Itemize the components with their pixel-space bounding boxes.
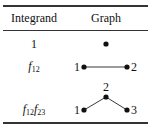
vertex-label-r2-1: 1 — [74, 61, 80, 73]
vertex-1 — [81, 107, 86, 112]
vertex-1 — [81, 64, 86, 69]
vertex — [103, 41, 108, 46]
table-bottom-rule — [3, 122, 148, 124]
vertex-3 — [124, 107, 129, 112]
graph-row-1 — [103, 41, 108, 46]
edge-1-2 — [84, 97, 106, 110]
vertex-label-r3-2: 2 — [103, 81, 109, 93]
vertex-2 — [103, 94, 108, 99]
graph-row-2 — [81, 64, 129, 69]
vertex-label-r3-1: 1 — [74, 104, 80, 116]
vertex-label-r3-3: 3 — [131, 104, 137, 116]
vertex-label-r2-2: 2 — [131, 61, 137, 73]
edge-2-3 — [106, 97, 127, 110]
graph-row-3 — [81, 94, 129, 112]
vertex-2 — [124, 64, 129, 69]
